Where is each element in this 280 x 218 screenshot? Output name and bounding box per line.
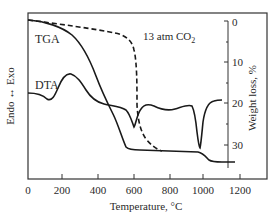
y-left-axis-title: Endo ↔ Exo <box>4 67 16 125</box>
x-tick-600: 600 <box>126 184 143 196</box>
x-axis-title: Temperature, °C <box>110 200 183 212</box>
x-tick-400: 400 <box>90 184 107 196</box>
dta-label: DTA <box>35 78 59 92</box>
x-axis-tick-labels: 0 200 400 600 800 1000 1200 <box>25 184 251 196</box>
x-tick-1200: 1200 <box>229 184 252 196</box>
co2-label-text: 13 atm CO <box>143 30 191 42</box>
y-right-tick-30: 30 <box>232 139 244 151</box>
x-tick-1000: 1000 <box>192 184 215 196</box>
x-tick-200: 200 <box>54 184 71 196</box>
y-right-tick-0: 0 <box>232 16 238 28</box>
y-right-axis-title: Weight loss, % <box>246 65 258 131</box>
co2-label-subscript: 2 <box>191 36 195 45</box>
tga-dta-chart: 0 200 400 600 800 1000 1200 Temperature,… <box>0 0 280 218</box>
weight-loss-axis <box>224 21 228 168</box>
y-right-tick-20: 20 <box>232 97 244 109</box>
weight-loss-tick-labels: 0 10 20 30 <box>232 16 244 151</box>
x-axis-ticks <box>62 174 240 179</box>
y-right-tick-10: 10 <box>232 56 244 68</box>
tga-label: TGA <box>35 32 60 46</box>
x-tick-0: 0 <box>25 184 31 196</box>
x-tick-800: 800 <box>162 184 179 196</box>
co2-label: 13 atm CO2 <box>143 30 195 45</box>
